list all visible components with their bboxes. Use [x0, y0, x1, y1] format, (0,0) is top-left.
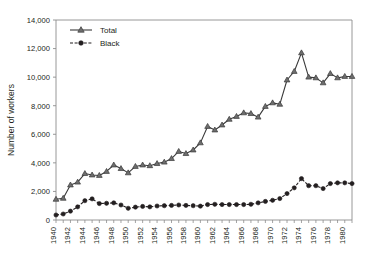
data-point-marker — [90, 197, 94, 201]
data-point-marker — [220, 202, 224, 206]
line-chart: 02,0004,0006,0008,00010,00012,00014,000 … — [0, 0, 375, 273]
y-axis-title: Number of workers — [6, 84, 16, 156]
data-point-marker — [263, 199, 267, 203]
data-point-marker — [299, 176, 303, 180]
data-point-marker — [112, 201, 116, 205]
data-point-marker — [314, 184, 318, 188]
data-point-marker — [234, 202, 238, 206]
y-tick-label: 0 — [46, 216, 50, 225]
y-tick-label: 6,000 — [31, 130, 50, 139]
x-tick-label: 1966 — [237, 227, 246, 244]
y-tick-label: 10,000 — [27, 73, 50, 82]
y-tick-label: 2,000 — [31, 187, 50, 196]
data-point-marker — [191, 204, 195, 208]
data-point-marker — [292, 186, 296, 190]
y-tick-label: 4,000 — [31, 159, 50, 168]
data-point-marker — [162, 204, 166, 208]
data-point-marker — [343, 181, 347, 185]
chart-figure: 02,0004,0006,0008,00010,00012,00014,000 … — [0, 0, 375, 273]
data-point-marker — [335, 181, 339, 185]
legend-marker-black — [79, 41, 84, 46]
data-point-marker — [148, 205, 152, 209]
data-point-marker — [206, 202, 210, 206]
x-tick-label: 1954 — [150, 227, 159, 244]
legend-label-total: Total — [100, 26, 117, 35]
x-tick-label: 1962 — [208, 227, 217, 244]
x-tick-label: 1968 — [251, 227, 260, 244]
data-point-marker — [54, 213, 58, 217]
x-tick-label: 1946 — [92, 227, 101, 244]
data-point-marker — [169, 203, 173, 207]
x-axis: 1940194219441946194819501952195419561958… — [49, 220, 352, 244]
data-point-marker — [126, 206, 130, 210]
x-tick-label: 1956 — [165, 227, 174, 244]
data-point-marker — [256, 201, 260, 205]
y-axis: 02,0004,0006,0008,00010,00012,00014,000 — [27, 16, 56, 225]
data-point-marker — [350, 181, 354, 185]
data-point-marker — [76, 205, 80, 209]
data-point-marker — [278, 196, 282, 200]
data-point-marker — [97, 201, 101, 205]
data-point-marker — [83, 199, 87, 203]
data-point-marker — [242, 202, 246, 206]
x-tick-label: 1974 — [294, 227, 303, 244]
data-point-marker — [104, 201, 108, 205]
data-point-marker — [141, 204, 145, 208]
x-tick-label: 1970 — [266, 227, 275, 244]
data-point-marker — [249, 202, 253, 206]
data-point-marker — [307, 184, 311, 188]
data-point-marker — [61, 212, 65, 216]
data-point-marker — [133, 205, 137, 209]
x-tick-label: 1964 — [222, 227, 231, 244]
data-point-marker — [119, 203, 123, 207]
data-point-marker — [177, 203, 181, 207]
x-tick-label: 1942 — [63, 227, 72, 244]
data-point-marker — [213, 202, 217, 206]
data-point-marker — [68, 209, 72, 213]
data-point-marker — [321, 186, 325, 190]
data-point-marker — [270, 198, 274, 202]
data-point-marker — [328, 181, 332, 185]
x-tick-label: 1950 — [121, 227, 130, 244]
x-tick-label: 1952 — [136, 227, 145, 244]
x-tick-label: 1940 — [49, 227, 58, 244]
x-tick-label: 1948 — [107, 227, 116, 244]
data-point-marker — [198, 204, 202, 208]
x-tick-label: 1944 — [78, 227, 87, 244]
x-tick-label: 1958 — [179, 227, 188, 244]
x-tick-label: 1978 — [323, 227, 332, 244]
x-tick-label: 1960 — [193, 227, 202, 244]
x-tick-label: 1972 — [280, 227, 289, 244]
x-tick-label: 1980 — [338, 227, 347, 244]
y-tick-label: 8,000 — [31, 102, 50, 111]
data-point-marker — [227, 202, 231, 206]
legend-label-black: Black — [100, 39, 121, 48]
data-point-marker — [155, 204, 159, 208]
y-tick-label: 12,000 — [27, 44, 50, 53]
data-point-marker — [184, 203, 188, 207]
y-tick-label: 14,000 — [27, 16, 50, 25]
data-point-marker — [285, 191, 289, 195]
x-tick-label: 1976 — [309, 227, 318, 244]
plot-background — [56, 20, 352, 220]
